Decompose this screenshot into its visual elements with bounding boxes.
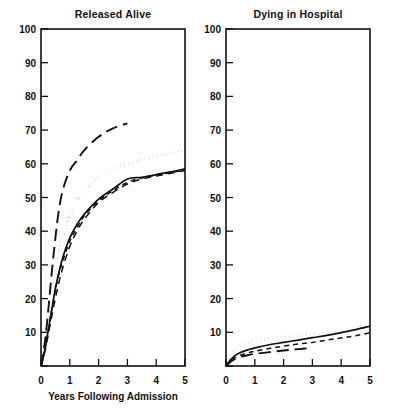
y-tick-label: 80 bbox=[25, 91, 37, 102]
x-tick-label: 0 bbox=[223, 375, 229, 386]
y-tick-label: 70 bbox=[25, 125, 37, 136]
y-tick-label: 90 bbox=[25, 58, 37, 69]
two-panel-line-chart: Released Alive 100 90 80 70 60 50 40 30 … bbox=[0, 0, 401, 420]
y-tick-label: 50 bbox=[210, 193, 222, 204]
y-tick-label: 20 bbox=[210, 294, 222, 305]
x-tick-label: 4 bbox=[153, 375, 159, 386]
x-axis-title-left: Years Following Admission bbox=[48, 391, 178, 402]
y-tick-label: 100 bbox=[204, 24, 221, 35]
y-tick-label: 20 bbox=[25, 294, 37, 305]
panel-title-right: Dying in Hospital bbox=[253, 8, 342, 20]
y-tick-label: 30 bbox=[25, 260, 37, 271]
x-tick-label: 5 bbox=[367, 375, 373, 386]
x-tick-label: 4 bbox=[338, 375, 344, 386]
y-tick-label: 50 bbox=[25, 193, 37, 204]
x-tick-label: 2 bbox=[281, 375, 287, 386]
y-tick-label: 60 bbox=[25, 159, 37, 170]
y-tick-label: 10 bbox=[210, 327, 222, 338]
x-tick-label: 0 bbox=[38, 375, 44, 386]
y-tick-label: 80 bbox=[210, 91, 222, 102]
y-tick-label: 60 bbox=[210, 159, 222, 170]
y-tick-label: 10 bbox=[25, 327, 37, 338]
y-tick-label: 100 bbox=[19, 24, 36, 35]
y-tick-label: 30 bbox=[210, 260, 222, 271]
y-tick-label: 70 bbox=[210, 125, 222, 136]
x-tick-label: 1 bbox=[252, 375, 258, 386]
y-tick-label: 90 bbox=[210, 58, 222, 69]
x-tick-label: 2 bbox=[96, 375, 102, 386]
x-tick-label: 5 bbox=[182, 375, 188, 386]
y-tick-label: 40 bbox=[210, 226, 222, 237]
figure-background bbox=[0, 0, 401, 420]
x-tick-label: 3 bbox=[310, 375, 316, 386]
x-tick-label: 1 bbox=[67, 375, 73, 386]
panel-title-left: Released Alive bbox=[75, 8, 152, 20]
y-tick-label: 40 bbox=[25, 226, 37, 237]
x-tick-label: 3 bbox=[125, 375, 131, 386]
